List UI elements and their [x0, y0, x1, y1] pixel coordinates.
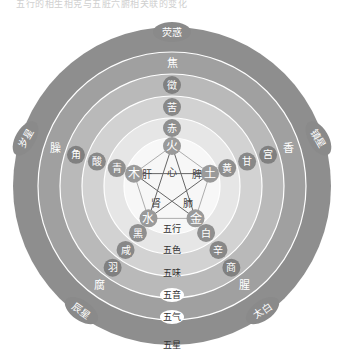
qi-fire: 焦	[167, 57, 178, 70]
se-metal: 白	[197, 224, 215, 242]
svg-text:辛: 辛	[213, 244, 223, 256]
ring-label-5: 五星	[163, 340, 181, 350]
yin-wood: 角	[67, 146, 85, 164]
svg-text:五气: 五气	[163, 311, 181, 322]
svg-text:徵: 徵	[167, 79, 177, 91]
se-fire: 赤	[163, 119, 181, 137]
qi-earth: 香	[283, 142, 294, 155]
organ-metal: 肺	[183, 198, 193, 209]
svg-text:五行: 五行	[163, 223, 181, 234]
svg-text:荧惑: 荧惑	[162, 26, 182, 38]
organ-water: 肾	[151, 198, 161, 209]
wei-wood: 酸	[88, 153, 106, 171]
svg-text:黄: 黄	[222, 162, 232, 174]
svg-text:青: 青	[112, 162, 122, 174]
five-elements-diagram: 火土金水木心脾肺肾肝赤苦徵焦荧惑黄甘宫香镇星白辛商腥太白黑咸羽腐辰星青酸角臊岁星…	[0, 0, 341, 359]
organ-earth: 脾	[192, 168, 202, 180]
yin-earth: 宫	[259, 146, 277, 164]
element-wood: 木	[125, 165, 143, 183]
element-fire: 火	[163, 137, 181, 155]
svg-text:金: 金	[190, 211, 202, 226]
svg-text:五星: 五星	[163, 340, 181, 350]
se-wood: 青	[108, 159, 126, 177]
svg-text:咸: 咸	[121, 245, 131, 256]
ring-label-2: 五味	[163, 267, 181, 278]
svg-text:黑: 黑	[133, 228, 143, 239]
svg-text:赤: 赤	[167, 123, 177, 134]
svg-text:臊: 臊	[50, 142, 61, 155]
wei-water: 咸	[117, 241, 135, 259]
wei-earth: 甘	[238, 153, 256, 171]
svg-text:火: 火	[166, 139, 178, 153]
svg-text:香: 香	[283, 142, 294, 155]
qi-wood: 臊	[50, 142, 61, 155]
organ-wood: 肝	[142, 169, 152, 180]
svg-text:商: 商	[226, 261, 236, 273]
svg-text:五味: 五味	[163, 267, 181, 278]
svg-text:甘: 甘	[242, 155, 252, 167]
yin-metal: 商	[222, 259, 240, 277]
se-water: 黑	[129, 224, 147, 242]
svg-text:白: 白	[201, 227, 211, 239]
svg-text:腐: 腐	[94, 278, 105, 292]
svg-text:宫: 宫	[263, 148, 273, 160]
organ-fire: 心	[167, 167, 177, 178]
wei-fire: 苦	[163, 98, 181, 116]
ring-label-3: 五音	[160, 288, 184, 302]
svg-text:焦: 焦	[167, 57, 178, 70]
svg-text:五色: 五色	[163, 244, 181, 255]
yin-water: 羽	[104, 259, 122, 277]
se-earth: 黄	[218, 159, 236, 177]
svg-text:水: 水	[142, 212, 154, 226]
svg-text:酸: 酸	[92, 155, 102, 167]
qi-metal: 腥	[239, 279, 250, 292]
svg-text:角: 角	[71, 149, 81, 160]
svg-text:羽: 羽	[108, 262, 118, 273]
qi-water: 腐	[94, 278, 105, 292]
yin-fire: 徵	[163, 76, 181, 94]
ring-label-4: 五气	[160, 310, 184, 324]
element-earth: 土	[201, 165, 219, 183]
element-water: 水	[139, 209, 157, 227]
svg-text:腥: 腥	[239, 279, 250, 292]
svg-text:五音: 五音	[163, 289, 181, 300]
svg-text:土: 土	[204, 167, 216, 181]
svg-text:木: 木	[128, 167, 140, 181]
wei-metal: 辛	[209, 241, 227, 259]
svg-text:苦: 苦	[167, 101, 177, 113]
ring-label-1: 五色	[163, 244, 181, 255]
element-metal: 金	[187, 209, 205, 227]
star-fire: 荧惑	[153, 22, 191, 42]
ring-label-0: 五行	[163, 223, 181, 234]
